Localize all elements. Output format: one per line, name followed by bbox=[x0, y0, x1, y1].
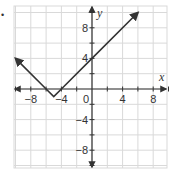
x-tick-label: −4 bbox=[55, 93, 68, 105]
y-axis-label: y bbox=[96, 6, 103, 20]
y-tick-label: −8 bbox=[75, 144, 88, 156]
y-tick-label: −4 bbox=[75, 114, 88, 126]
grid-lines bbox=[14, 6, 167, 168]
axes bbox=[15, 7, 169, 167]
svg-text:0: 0 bbox=[83, 93, 89, 105]
x-tick-label: 8 bbox=[150, 93, 156, 105]
tick-labels: −8−448084−4−8xy bbox=[25, 6, 165, 156]
absolute-value-graph: −8−448084−4−8xy bbox=[0, 0, 170, 175]
y-tick-label: 8 bbox=[82, 22, 88, 34]
x-axis-label: x bbox=[158, 70, 165, 84]
x-tick-label: 4 bbox=[120, 93, 126, 105]
x-tick-label: −8 bbox=[25, 93, 38, 105]
